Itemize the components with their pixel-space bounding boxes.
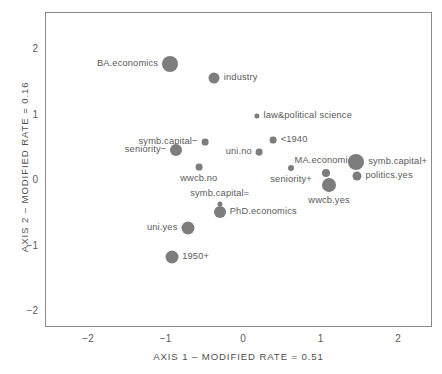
x-tick-label: −2 xyxy=(82,334,93,344)
x-tick-label: −1 xyxy=(160,334,171,344)
x-axis-title: AXIS 1 – MODIFIED RATE = 0.51 xyxy=(45,352,432,362)
plot-area: BA.economicsindustrylaw&political scienc… xyxy=(45,12,432,327)
x-tick-label: 0 xyxy=(240,334,246,344)
data-point-label: BA.economics xyxy=(97,59,158,68)
data-point xyxy=(256,148,263,155)
data-point-label: politics.yes xyxy=(365,171,412,180)
data-point xyxy=(322,169,330,177)
data-point xyxy=(254,113,259,118)
data-point-label: PhD.economics xyxy=(230,207,297,216)
data-point-label: 1950+ xyxy=(182,253,209,262)
data-point xyxy=(195,163,202,170)
scatter-plot-figure: BA.economicsindustrylaw&political scienc… xyxy=(0,0,442,374)
data-point xyxy=(165,251,178,264)
data-point xyxy=(352,172,361,181)
x-tick-label: 2 xyxy=(395,334,401,344)
data-point xyxy=(162,56,178,72)
data-point xyxy=(270,137,277,144)
data-point xyxy=(322,178,336,192)
data-point-label: uni.yes xyxy=(147,223,178,232)
data-point xyxy=(181,221,194,234)
data-point-label: law&political science xyxy=(264,111,352,120)
data-point xyxy=(348,154,364,170)
data-point-label: symb.capital= xyxy=(190,188,249,197)
data-point xyxy=(214,206,226,218)
y-tick-label: 0 xyxy=(32,175,38,185)
data-point-label: <1940 xyxy=(281,135,308,144)
y-axis-title: AXIS 2 – MODIFIED RATE = 0.16 xyxy=(20,2,30,332)
y-tick-label: 1 xyxy=(32,110,38,120)
data-point-label: symb.capital+ xyxy=(368,158,427,167)
x-tick-label: 1 xyxy=(318,334,324,344)
data-point-label: industry xyxy=(224,73,258,82)
y-tick-label: 2 xyxy=(32,44,38,54)
data-point-label: uni.no xyxy=(226,147,252,156)
data-point-label: wwcb.yes xyxy=(308,196,350,205)
data-point xyxy=(202,139,209,146)
data-point xyxy=(209,72,220,83)
data-point-label: wwcb.no xyxy=(180,174,217,183)
data-point-label: seniority− xyxy=(125,145,167,154)
data-point-label: seniority+ xyxy=(270,175,312,184)
data-point xyxy=(288,165,294,171)
data-point xyxy=(170,144,182,156)
